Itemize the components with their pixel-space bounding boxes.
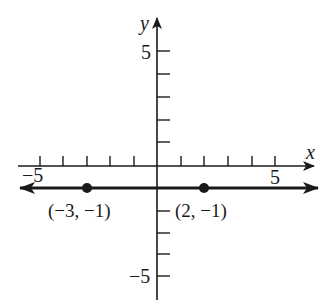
- y-axis-ticks: [157, 51, 170, 276]
- x-axis-label: x: [305, 141, 315, 163]
- coordinate-plane: x −5 5 y 5 −5 (−3, −1) (2, −1): [0, 0, 333, 308]
- y-axis: y 5 −5: [129, 12, 170, 300]
- x-tick-label-min: −5: [22, 164, 43, 186]
- point-label-neg3-neg1: (−3, −1): [48, 200, 111, 222]
- point-neg3-neg1: [82, 183, 92, 193]
- point-label-2-neg1: (2, −1): [175, 200, 227, 222]
- line-y-equals-neg1: (−3, −1) (2, −1): [20, 183, 318, 222]
- y-tick-label-min: −5: [129, 265, 150, 287]
- y-tick-label-max: 5: [141, 41, 151, 63]
- y-axis-label: y: [138, 12, 149, 35]
- x-axis: x −5 5: [18, 141, 315, 188]
- point-2-neg1: [199, 183, 209, 193]
- x-tick-label-max: 5: [270, 166, 280, 188]
